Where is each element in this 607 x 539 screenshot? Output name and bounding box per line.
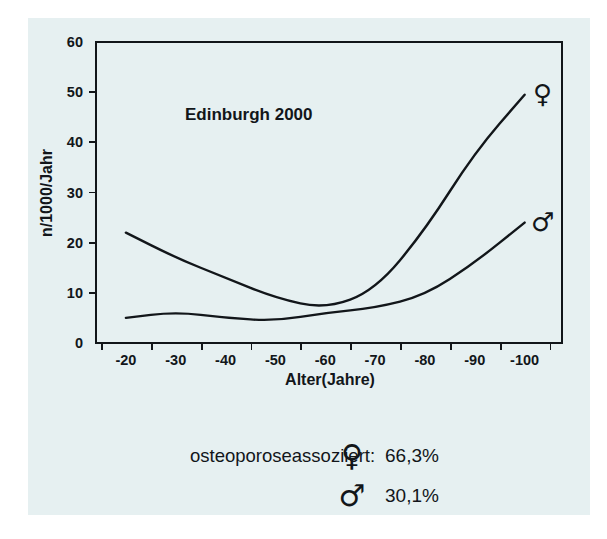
x-tick-label: -50 bbox=[265, 352, 286, 368]
chart-canvas: 0102030405060 -20-30-40-50-60-70-80-90-1… bbox=[0, 0, 607, 539]
series-marker-female-symbol: ♀ bbox=[533, 79, 552, 109]
x-axis: -20-30-40-50-60-70-80-90-100 bbox=[102, 343, 551, 368]
series-end-symbols: ♀♂ bbox=[531, 79, 554, 237]
y-tick-label: 50 bbox=[67, 84, 83, 100]
chart-title: Edinburgh 2000 bbox=[185, 105, 313, 124]
x-tick-label: -70 bbox=[365, 352, 386, 368]
y-tick-label: 20 bbox=[67, 235, 83, 251]
footnote-female-symbol: ♀ bbox=[341, 438, 363, 473]
x-tick-label: -90 bbox=[464, 352, 485, 368]
footnote-female-value: 66,3% bbox=[385, 445, 439, 466]
y-axis: 0102030405060 bbox=[67, 34, 96, 351]
x-tick-label: -40 bbox=[215, 352, 236, 368]
y-tick-label: 60 bbox=[67, 34, 83, 50]
y-tick-label: 0 bbox=[75, 335, 83, 351]
series-marker-male-symbol: ♂ bbox=[531, 207, 554, 237]
y-axis-title: n/1000/Jahr bbox=[38, 149, 55, 237]
x-tick-label: -100 bbox=[510, 352, 539, 368]
x-tick-label: -80 bbox=[414, 352, 435, 368]
footnote-block: osteoporoseassoziiert: ♀ 66,3% ♂ 30,1% bbox=[190, 438, 439, 513]
figure-page: 0102030405060 -20-30-40-50-60-70-80-90-1… bbox=[0, 0, 607, 539]
x-tick-label: -60 bbox=[315, 352, 336, 368]
series-lines bbox=[126, 95, 525, 320]
x-tick-label: -30 bbox=[165, 352, 186, 368]
plot-frame bbox=[96, 42, 562, 343]
y-tick-label: 10 bbox=[67, 285, 83, 301]
footnote-male-value: 30,1% bbox=[385, 485, 439, 506]
x-tick-label: -20 bbox=[115, 352, 136, 368]
x-axis-title: Alter(Jahre) bbox=[285, 371, 375, 388]
y-tick-label: 40 bbox=[67, 134, 83, 150]
footnote-male-symbol: ♂ bbox=[339, 478, 366, 513]
series-line-female bbox=[126, 95, 525, 306]
y-tick-label: 30 bbox=[67, 185, 83, 201]
